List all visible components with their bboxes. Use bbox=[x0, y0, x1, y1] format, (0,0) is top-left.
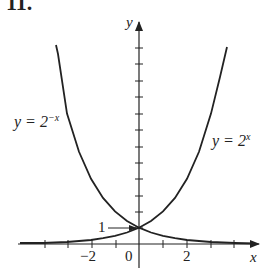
curve-label-exponent: x bbox=[246, 131, 250, 142]
x-tick-label-0: 0 bbox=[125, 248, 133, 265]
x-axis-label: x bbox=[250, 249, 257, 266]
curve-label-text: y = 2 bbox=[14, 113, 48, 130]
y-axis-label: y bbox=[126, 14, 133, 31]
x-tick-label-neg2: −2 bbox=[80, 248, 96, 265]
curve-2-pow-x bbox=[20, 47, 227, 243]
one-annotation-label: 1 bbox=[98, 219, 106, 236]
curve-label-text: y = 2 bbox=[212, 132, 246, 149]
curve-label-2-pow-x: y = 2x bbox=[212, 131, 250, 150]
x-tick-label-2: 2 bbox=[183, 248, 191, 265]
curve-label-exponent: −x bbox=[48, 112, 59, 123]
curve-label-2-pow-neg-x: y = 2−x bbox=[14, 112, 59, 131]
